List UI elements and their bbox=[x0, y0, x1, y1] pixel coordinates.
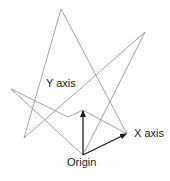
coordinate-frame-diagram bbox=[0, 0, 170, 181]
junction-to-y-tip bbox=[68, 110, 83, 117]
wireframe-lines bbox=[11, 9, 145, 155]
tall-triangle-edge bbox=[24, 9, 127, 138]
left-point-to-junction bbox=[11, 89, 68, 117]
x-axis-label: X axis bbox=[134, 128, 164, 139]
axis-arrows bbox=[83, 111, 126, 155]
y-axis-label: Y axis bbox=[46, 78, 76, 89]
x-axis-arrow bbox=[83, 134, 126, 155]
bottom-left-to-right-peak bbox=[24, 32, 145, 138]
origin-label: Origin bbox=[67, 157, 96, 168]
left-point-to-origin bbox=[11, 89, 83, 155]
